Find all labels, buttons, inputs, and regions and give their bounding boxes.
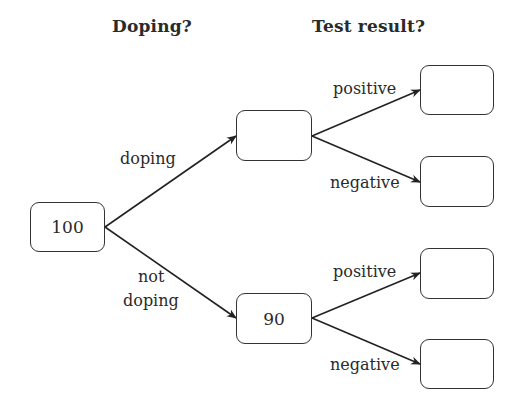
label-upper-negative: negative	[330, 172, 400, 194]
label-lower-positive: positive	[333, 261, 396, 283]
label-not-doping-line2: doping	[123, 290, 179, 312]
label-lower-negative: negative	[330, 354, 400, 376]
node-doping-positive	[420, 65, 494, 115]
node-root: 100	[30, 202, 105, 252]
label-upper-positive: positive	[333, 78, 396, 100]
node-doping	[236, 110, 312, 161]
label-not-doping-line1: not	[138, 266, 164, 288]
node-not-doping: 90	[236, 293, 312, 344]
node-doping-negative	[420, 156, 494, 207]
node-not-doping-negative	[420, 339, 494, 389]
label-doping: doping	[120, 148, 176, 170]
node-not-doping-positive	[420, 248, 494, 299]
